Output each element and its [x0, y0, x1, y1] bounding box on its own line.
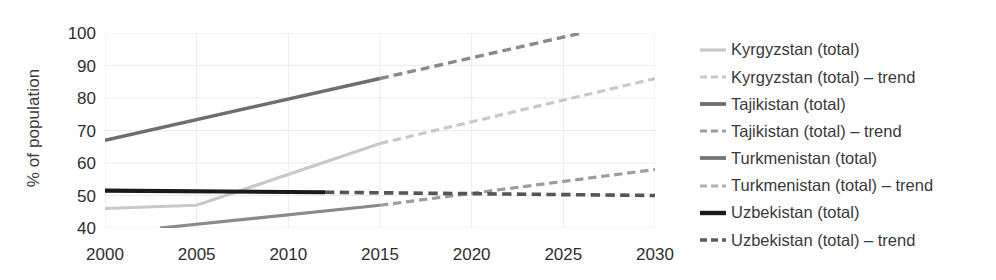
legend-item-label: Tajikistan (total)	[731, 96, 846, 113]
x-tick-label: 2005	[162, 246, 232, 263]
x-tick-label: 2030	[620, 246, 690, 263]
y-axis-title: % of population	[24, 18, 44, 238]
y-tick-label: 80	[52, 90, 96, 107]
x-tick-label: 2010	[253, 246, 323, 263]
y-tick-label: 60	[52, 155, 96, 172]
legend-item[interactable]: Kyrgyzstan (total)	[700, 36, 996, 63]
y-tick-label: 50	[52, 187, 96, 204]
legend-line-swatch-icon	[700, 97, 726, 111]
legend-line-swatch-icon	[700, 43, 726, 57]
plot-area	[105, 33, 655, 228]
legend-line-swatch-icon	[700, 233, 726, 247]
series-line	[105, 144, 380, 209]
series-line	[380, 79, 655, 144]
legend-line-swatch-icon	[700, 124, 726, 138]
gridlines	[105, 33, 655, 228]
legend-line-swatch-icon	[700, 70, 726, 84]
series-line	[380, 33, 582, 79]
legend-item-label: Turkmenistan (total)	[731, 150, 877, 167]
legend-item[interactable]: Kyrgyzstan (total) – trend	[700, 63, 996, 90]
legend-item-label: Kyrgyzstan (total) – trend	[731, 69, 915, 86]
legend-item-label: Turkmenistan (total) – trend	[731, 177, 933, 194]
plot-svg	[105, 33, 655, 228]
series-line	[380, 170, 655, 206]
legend-item[interactable]: Uzbekistan (total) – trend	[700, 226, 996, 253]
series-line	[160, 205, 380, 228]
legend-item-label: Kyrgyzstan (total)	[731, 41, 859, 58]
legend-line-swatch-icon	[700, 151, 726, 165]
x-tick-label: 2015	[345, 246, 415, 263]
chart-legend: Kyrgyzstan (total)Kyrgyzstan (total) – t…	[700, 36, 996, 254]
legend-item[interactable]: Tajikistan (total)	[700, 90, 996, 117]
legend-item[interactable]: Turkmenistan (total)	[700, 145, 996, 172]
y-tick-label: 100	[52, 25, 96, 42]
legend-line-swatch-icon	[700, 206, 726, 220]
x-tick-label: 2020	[437, 246, 507, 263]
y-tick-label: 70	[52, 122, 96, 139]
x-tick-label: 2025	[528, 246, 598, 263]
series-line	[105, 191, 325, 193]
line-chart: % of population 100908070605040 20002005…	[0, 0, 996, 280]
legend-item-label: Tajikistan (total) – trend	[731, 123, 902, 140]
y-tick-label: 40	[52, 220, 96, 237]
legend-line-swatch-icon	[700, 179, 726, 193]
x-tick-label: 2000	[70, 246, 140, 263]
legend-item[interactable]: Tajikistan (total) – trend	[700, 118, 996, 145]
y-axis-tick-labels: 100908070605040	[48, 0, 96, 280]
legend-item[interactable]: Turkmenistan (total) – trend	[700, 172, 996, 199]
legend-item-label: Uzbekistan (total) – trend	[731, 232, 915, 249]
legend-item[interactable]: Uzbekistan (total)	[700, 199, 996, 226]
legend-item-label: Uzbekistan (total)	[731, 204, 859, 221]
y-tick-label: 90	[52, 57, 96, 74]
